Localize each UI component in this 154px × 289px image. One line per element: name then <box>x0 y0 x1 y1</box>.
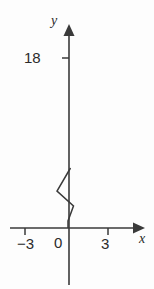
x-tick-label-zero: 0 <box>54 235 62 250</box>
graph-figure: y x 18 −3 0 3 <box>0 0 154 289</box>
y-axis-arrow-icon <box>64 24 75 36</box>
curve-path <box>57 168 74 228</box>
x-tick-label-neg3: −3 <box>17 236 34 251</box>
y-tick-label-18: 18 <box>24 50 41 65</box>
x-axis-label: x <box>139 232 145 246</box>
x-tick-label-3: 3 <box>101 236 109 251</box>
y-axis-label: y <box>51 14 57 28</box>
